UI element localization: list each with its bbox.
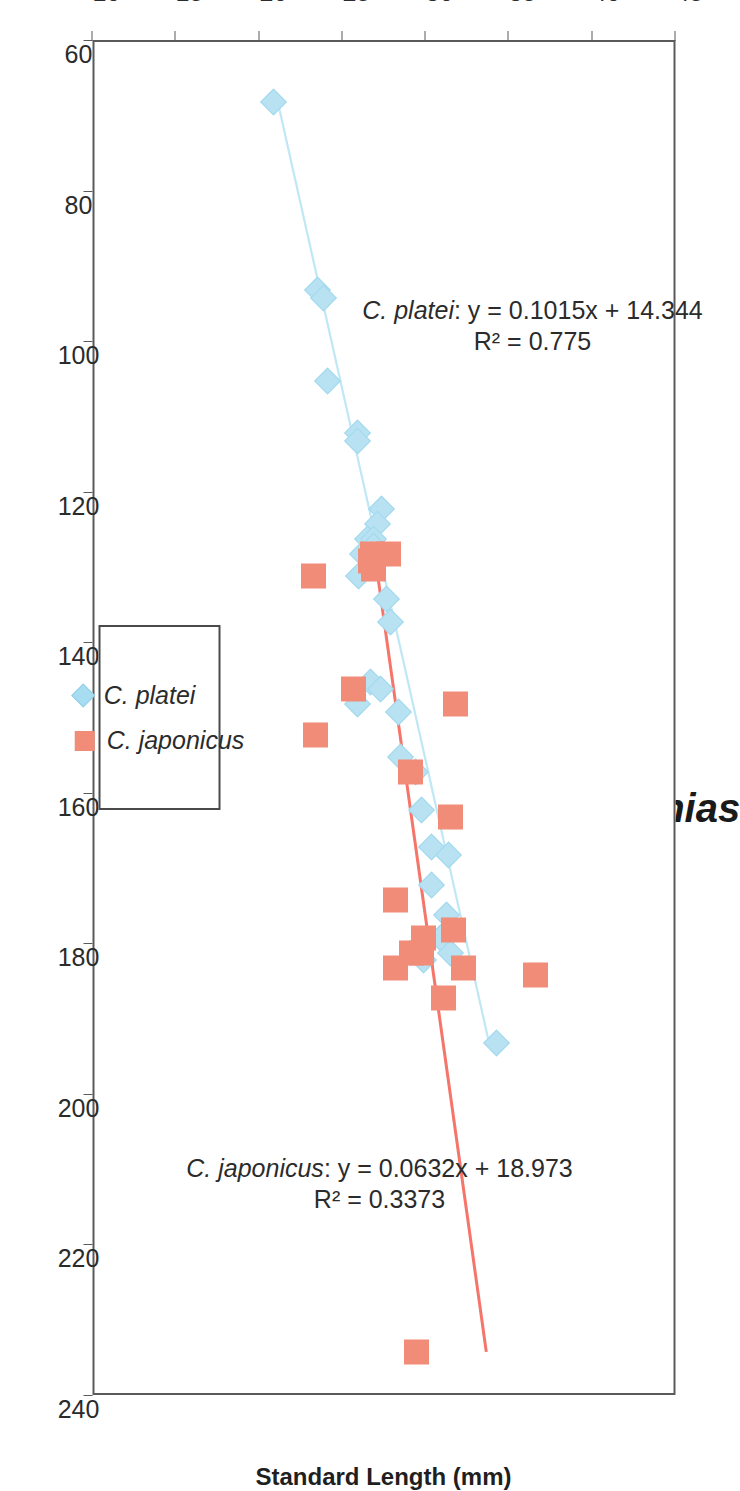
data-point-japonicus [382,888,407,913]
length-axis-label: 100 [57,341,99,370]
length-axis-label: 200 [57,1094,99,1123]
data-point-japonicus [409,940,434,965]
value-axis-label: 40 [592,0,620,7]
data-point-japonicus [404,1339,429,1364]
data-point-japonicus [451,955,476,980]
value-axis-tick [424,31,425,41]
value-axis-label: 15 [175,0,203,7]
value-axis-tick [258,31,259,41]
length-axis-label: 180 [57,943,99,972]
legend: C. platei C. japonicus [98,625,220,810]
value-axis-label: 35 [508,0,536,7]
value-axis-label: 10 [92,0,120,7]
japonicus-species-name: C. japonicus [185,1154,323,1182]
legend-item-platei: C. platei [74,681,244,710]
data-point-japonicus [341,677,366,702]
square-marker-icon [74,730,94,750]
data-point-japonicus [301,564,326,589]
length-axis-label: 60 [64,40,92,69]
data-point-japonicus [441,918,466,943]
platei-r2: R² = 0.775 [361,326,702,357]
value-axis-tick [174,31,175,41]
platei-species-name: C. platei [361,296,453,324]
japonicus-r2: R² = 0.3373 [185,1184,571,1215]
data-point-japonicus [302,722,327,747]
value-axis-label: 45 [675,0,703,7]
legend-item-japonicus: C. japonicus [74,726,244,755]
x-axis-title: Standard Length (mm) [256,1463,512,1491]
length-axis-label: 160 [57,793,99,822]
length-axis-label: 140 [57,642,99,671]
legend-label-japonicus: C. japonicus [106,726,244,755]
japonicus-regression-label: C. japonicus: y = 0.0632x + 18.973 R² = … [185,1153,571,1216]
value-axis-tick [674,31,675,41]
value-axis-label: 30 [425,0,453,7]
data-point-japonicus [522,963,547,988]
length-axis-label: 240 [57,1395,99,1424]
value-axis-tick [591,31,592,41]
platei-regression-label: C. platei: y = 0.1015x + 14.344 R² = 0.7… [361,295,702,358]
data-point-japonicus [431,986,456,1011]
length-axis-label: 80 [64,191,92,220]
diamond-marker-icon [70,683,94,707]
data-point-japonicus [437,805,462,830]
platei-equation-text: y = 0.1015x + 14.344 [467,296,702,324]
value-axis-tick [341,31,342,41]
length-axis-label: 220 [57,1244,99,1273]
data-point-japonicus [361,556,386,581]
value-axis-tick [507,31,508,41]
data-point-japonicus [442,692,467,717]
platei-equation: : [453,296,467,324]
data-point-japonicus [397,760,422,785]
japonicus-equation-text: y = 0.0632x + 18.973 [337,1154,572,1182]
length-axis-label: 120 [57,492,99,521]
value-axis-label: 20 [259,0,287,7]
value-axis-label: 25 [342,0,370,7]
data-point-japonicus [382,955,407,980]
legend-label-platei: C. platei [103,681,195,710]
